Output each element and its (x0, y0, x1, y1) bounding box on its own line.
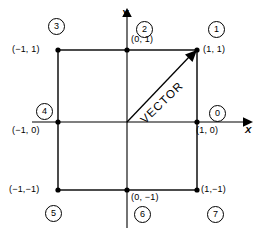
direction-code-4: 4 (36, 103, 53, 120)
direction-code-6: 6 (134, 206, 151, 223)
coord-label-bottom-right: (1,−1) (201, 184, 226, 194)
direction-code-5: 5 (45, 205, 62, 222)
chain-code-diagram: Y X (−1, 1) (0, 1) (1, 1) (−1, 0) (1, 0)… (0, 0, 268, 237)
coord-label-mid-left: (−1, 0) (12, 125, 40, 135)
coord-label-top-left: (−1, 1) (12, 44, 40, 54)
node-dot-1 (194, 47, 199, 52)
direction-code-7: 7 (207, 206, 224, 223)
direction-code-0: 0 (209, 105, 226, 122)
coord-label-bottom-left: (−1,−1) (9, 184, 39, 194)
direction-code-3: 3 (48, 18, 65, 35)
node-dot-7 (194, 187, 199, 192)
node-dot-2 (124, 47, 129, 52)
node-dot-6 (124, 187, 129, 192)
node-dot-5 (55, 187, 60, 192)
coord-label-mid-right: (1, 0) (196, 125, 218, 135)
y-axis-label: Y (122, 7, 128, 18)
node-dot-3 (55, 47, 60, 52)
node-dot-0 (194, 119, 199, 124)
node-dot-4 (55, 119, 60, 124)
direction-code-2: 2 (136, 21, 153, 38)
direction-code-1: 1 (208, 21, 225, 38)
coord-label-top-right: (1, 1) (203, 44, 225, 54)
coord-label-bottom-mid: (0, −1) (131, 192, 159, 202)
x-axis-label: X (245, 124, 251, 135)
